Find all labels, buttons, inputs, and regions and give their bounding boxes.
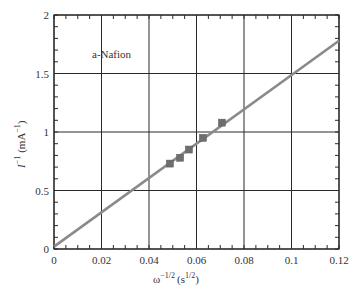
y-axis-unit-exponent: −1 [13, 124, 22, 133]
x-axis-exponent: −1/2 [160, 271, 175, 280]
x-axis-unit: (s [177, 273, 185, 286]
chart-labels: a-Nafion ω−1/2(s1/2) I−1(mA−1) [0, 0, 362, 292]
annotation-label: a-Nafion [92, 48, 132, 60]
y-axis-title: I−1(mA−1) [13, 120, 28, 169]
x-axis-unit-exponent: 1/2 [185, 271, 195, 280]
x-axis-symbol: ω [153, 273, 160, 285]
x-axis-title: ω−1/2(s1/2) [153, 271, 199, 286]
y-axis-unit-close: ) [15, 120, 28, 124]
y-axis-exponent: −1 [13, 156, 22, 165]
x-axis-unit-close: ) [195, 273, 199, 286]
y-axis-unit: (mA [15, 133, 28, 153]
